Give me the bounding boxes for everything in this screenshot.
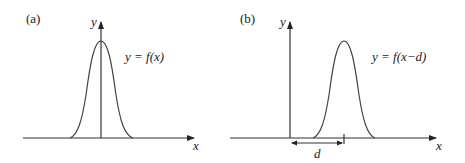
- y-axis-label-b: y: [278, 14, 286, 29]
- curve-equation-a: y = f(x): [123, 49, 164, 64]
- panel-label-b: (b): [240, 11, 255, 26]
- panel-b: (b) y y = f(x−d) x d: [230, 11, 442, 161]
- curve-equation-b: y = f(x−d): [370, 49, 426, 64]
- x-axis-label-b: x: [435, 138, 442, 153]
- bell-curve-b: [313, 41, 375, 138]
- panel-a: (a) y y = f(x) x: [23, 11, 199, 153]
- x-axis-label-a: x: [192, 138, 199, 153]
- panel-label-a: (a): [26, 11, 40, 26]
- y-axis-label-a: y: [89, 14, 97, 29]
- diagram-canvas: (a) y y = f(x) x (b) y y = f(x−d) x d: [0, 0, 465, 163]
- shift-label-d: d: [314, 146, 321, 161]
